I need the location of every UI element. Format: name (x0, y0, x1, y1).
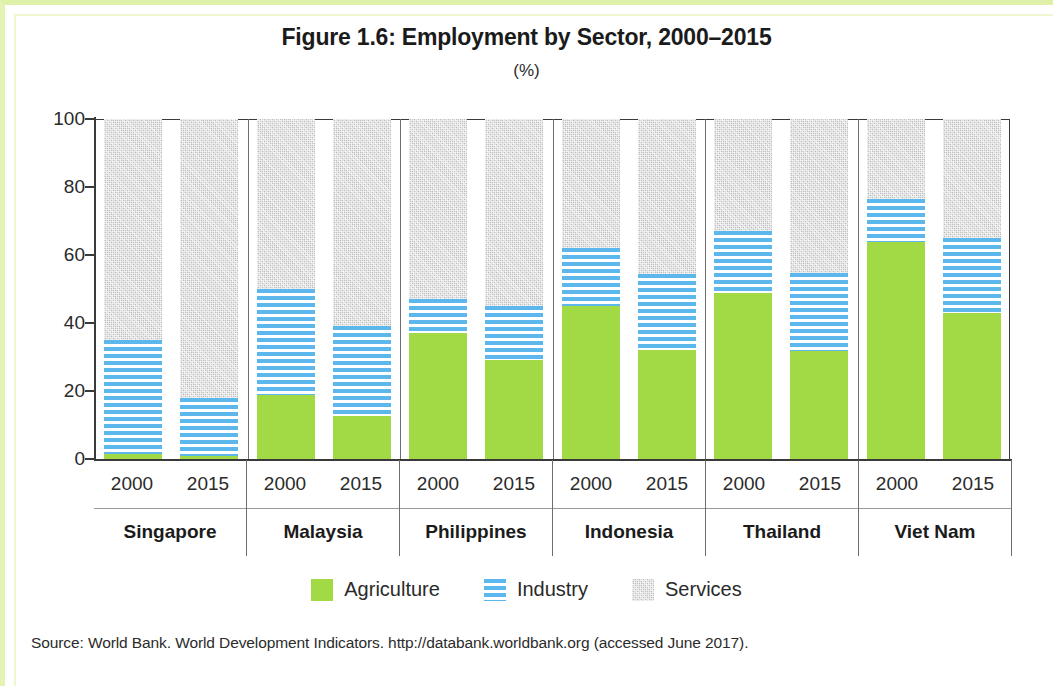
bar-segment-services (562, 119, 620, 248)
bar-slot (324, 119, 400, 459)
x-axis-country-label: Viet Nam (859, 509, 1011, 557)
x-axis-year-row: 20002015 (706, 460, 858, 509)
bar-segment-agriculture (638, 350, 696, 459)
bar-segment-agriculture (257, 395, 315, 459)
bar-segment-agriculture (180, 456, 238, 459)
y-axis-tick-mark (85, 458, 94, 460)
x-axis-year-row: 20002015 (94, 460, 246, 509)
bar-group (705, 119, 858, 459)
stacked-bar[interactable] (943, 119, 1001, 459)
figure-subtitle-units: (%) (0, 61, 1053, 81)
y-axis-tick-label: 60 (39, 244, 85, 266)
legend-label: Services (665, 578, 742, 601)
bar-slot (629, 119, 705, 459)
bar-segment-agriculture (943, 313, 1001, 459)
bar-segment-industry (257, 289, 315, 395)
stacked-bar[interactable] (638, 119, 696, 459)
x-axis-year-label: 2015 (476, 460, 552, 508)
legend-item[interactable]: Agriculture (311, 578, 440, 601)
x-axis-year-row: 20002015 (400, 460, 552, 509)
bar-segment-agriculture (333, 416, 391, 459)
bar-segment-services (638, 119, 696, 274)
bar-segment-industry (638, 274, 696, 350)
stacked-bar-chart: 020406080100 20002015Singapore20002015Ma… (28, 96, 1028, 556)
gray-speckled-square-icon (632, 579, 654, 601)
bar-group (553, 119, 706, 459)
x-axis-country-label: Singapore (94, 509, 246, 557)
bar-segment-agriculture (485, 360, 543, 459)
x-axis-year-row: 20002015 (859, 460, 1011, 509)
stacked-bar[interactable] (562, 119, 620, 459)
bar-segment-agriculture (562, 306, 620, 459)
bar-segment-services (257, 119, 315, 289)
bar-segment-industry (333, 326, 391, 416)
x-axis-year-label: 2015 (323, 460, 399, 508)
x-axis-country-label: Indonesia (553, 509, 705, 557)
solid-green-square-icon (311, 579, 333, 601)
bar-segment-agriculture (104, 454, 162, 459)
chart-legend: AgricultureIndustryServices (0, 578, 1053, 601)
y-axis-tick-mark (85, 186, 94, 188)
bar-slot (95, 119, 171, 459)
stacked-bar[interactable] (485, 119, 543, 459)
bar-group (95, 119, 248, 459)
bar-segment-services (409, 119, 467, 299)
y-axis-tick-label: 40 (39, 312, 85, 334)
y-axis-tick-mark (85, 254, 94, 256)
y-axis-tick-label: 0 (39, 448, 85, 470)
bar-segment-industry (714, 231, 772, 293)
stacked-bar[interactable] (409, 119, 467, 459)
stacked-bar[interactable] (257, 119, 315, 459)
stacked-bar[interactable] (790, 119, 848, 459)
bar-groups-container (95, 119, 1010, 459)
x-axis-year-label: 2000 (706, 460, 782, 508)
bar-slot (781, 119, 857, 459)
legend-item[interactable]: Services (632, 578, 742, 601)
x-axis-group-cell: 20002015Philippines (400, 460, 553, 556)
blue-striped-square-icon (484, 579, 506, 601)
legend-label: Agriculture (344, 578, 440, 601)
bar-segment-services (104, 119, 162, 340)
legend-item[interactable]: Industry (484, 578, 588, 601)
stacked-bar[interactable] (867, 119, 925, 459)
stacked-bar[interactable] (180, 119, 238, 459)
x-axis-year-label: 2015 (935, 460, 1011, 508)
bar-segment-industry (104, 340, 162, 454)
x-axis-year-label: 2015 (629, 460, 705, 508)
x-axis-year-label: 2000 (400, 460, 476, 508)
x-axis-group-cell: 20002015Indonesia (553, 460, 706, 556)
y-axis-tick-mark (85, 322, 94, 324)
source-note: Source: World Bank. World Development In… (31, 634, 748, 652)
bar-segment-services (867, 119, 925, 199)
bar-slot (400, 119, 476, 459)
bar-segment-agriculture (409, 333, 467, 459)
stacked-bar[interactable] (714, 119, 772, 459)
x-axis-country-label: Malaysia (247, 509, 399, 557)
x-axis-year-label: 2000 (247, 460, 323, 508)
bar-segment-industry (180, 398, 238, 455)
bar-segment-services (714, 119, 772, 231)
x-axis-country-label: Philippines (400, 509, 552, 557)
stacked-bar[interactable] (333, 119, 391, 459)
y-axis-tick-label: 20 (39, 380, 85, 402)
stacked-bar[interactable] (104, 119, 162, 459)
bar-segment-agriculture (867, 242, 925, 459)
legend-label: Industry (517, 578, 588, 601)
bar-segment-industry (943, 238, 1001, 313)
x-axis-group-cell: 20002015Thailand (706, 460, 859, 556)
bar-segment-services (180, 119, 238, 398)
x-axis-group-cell: 20002015Malaysia (247, 460, 400, 556)
x-axis-year-label: 2000 (94, 460, 170, 508)
bar-segment-industry (867, 199, 925, 242)
y-axis-tick-labels: 020406080100 (28, 96, 85, 486)
bar-slot (248, 119, 324, 459)
bar-slot (934, 119, 1010, 459)
bar-segment-services (790, 119, 848, 273)
bar-segment-agriculture (714, 293, 772, 459)
x-axis-group-cell: 20002015Singapore (94, 460, 247, 556)
x-axis-year-label: 2000 (859, 460, 935, 508)
bar-segment-industry (409, 299, 467, 333)
bar-slot (858, 119, 934, 459)
figure-title: Figure 1.6: Employment by Sector, 2000–2… (0, 24, 1053, 51)
bar-segment-services (485, 119, 543, 306)
